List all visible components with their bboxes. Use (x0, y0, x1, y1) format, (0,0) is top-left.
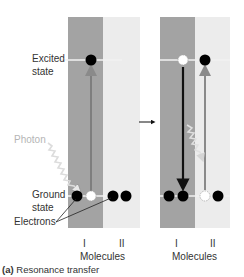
electron-excited-hole (178, 55, 188, 65)
ground-state-label-2: state (32, 202, 54, 213)
caption-text: Resonance transfer (16, 264, 99, 275)
left-molecule-I-label: I (83, 238, 86, 249)
figure-caption: (a) Resonance transfer (2, 264, 99, 275)
electron-ground-2 (178, 191, 189, 202)
electron-ground-hole (86, 191, 96, 201)
right-molecule-II-label: II (210, 238, 216, 249)
electron-II-2 (213, 191, 224, 202)
right-molecule-I-label: I (175, 238, 178, 249)
electron-II-1 (108, 191, 119, 202)
excited-state-label-1: Excited (32, 53, 65, 64)
caption-prefix: (a) (2, 264, 14, 275)
electron-excited-II (200, 55, 211, 66)
left-molecules-axis-label: Molecules (80, 251, 125, 262)
electron-ground-1 (72, 191, 83, 202)
electron-II-2 (121, 191, 132, 202)
photon-label: Photon (14, 134, 46, 145)
ground-state-label-1: Ground (32, 189, 65, 200)
electron-excited (86, 55, 97, 66)
left-molecule-II-label: II (119, 238, 125, 249)
excited-state-label-2: state (32, 66, 54, 77)
electrons-label: Electrons (14, 216, 56, 227)
right-panel (160, 17, 230, 228)
electron-II-hole (200, 191, 210, 201)
right-molecules-axis-label: Molecules (172, 251, 217, 262)
electron-ground-1 (164, 191, 175, 202)
